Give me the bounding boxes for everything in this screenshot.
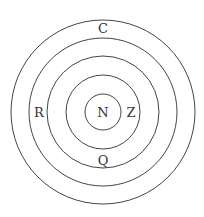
label-c: C	[98, 21, 108, 36]
concentric-circle-diagram: C R N Z Q	[0, 0, 204, 217]
label-z: Z	[126, 105, 135, 120]
label-n: N	[97, 105, 108, 120]
label-r: R	[34, 105, 45, 120]
label-q: Q	[98, 153, 109, 168]
